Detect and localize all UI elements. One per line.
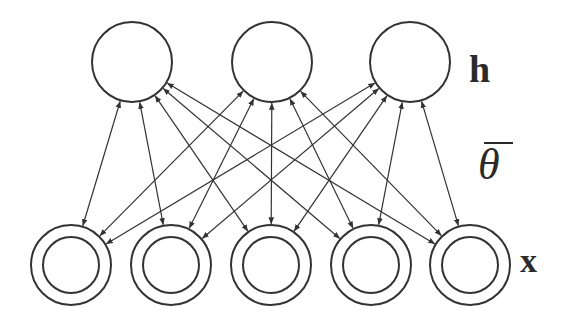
visible-node-x1: [31, 225, 111, 305]
hidden-layer-label: h: [469, 50, 490, 88]
edge-h3-x3: [294, 96, 387, 231]
visible-node-x2: [131, 225, 211, 305]
edges-group: [83, 83, 459, 244]
hidden-node-h1: [92, 22, 172, 102]
edge-h3-x5: [422, 101, 459, 225]
visible-layer-label: x: [520, 244, 537, 278]
edge-h2-x3: [271, 103, 272, 224]
visible-node-x5: [430, 225, 510, 305]
hidden-node-h3: [370, 22, 450, 102]
visible-node-x4: [331, 225, 411, 305]
edge-h1-x1: [83, 101, 120, 225]
edge-h3-x4: [379, 102, 403, 224]
visible-node-x3: [231, 225, 311, 305]
hidden-node-h2: [232, 22, 312, 102]
edge-h1-x5: [167, 83, 435, 244]
edge-h1-x4: [163, 89, 340, 239]
edge-h1-x2: [140, 102, 164, 224]
hidden-layer: [92, 22, 450, 102]
edge-h3-x2: [202, 89, 379, 239]
visible-layer: [31, 225, 510, 305]
parameters-label: θ: [478, 143, 500, 187]
